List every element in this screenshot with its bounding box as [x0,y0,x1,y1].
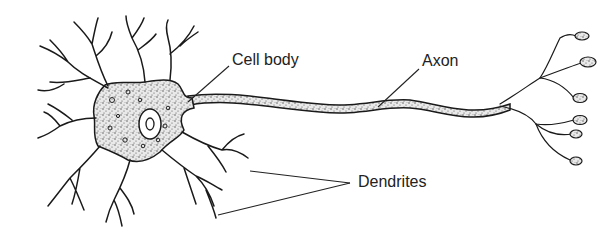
axon-terminal-bulb [575,32,589,40]
leader-lines [188,66,419,215]
neuron-diagram: Cell body Axon Dendrites [0,0,614,236]
neuron-illustration [0,0,614,236]
axon-terminal-bulb [570,130,582,138]
axon-terminal-bulb [580,57,596,67]
nucleus [139,109,161,139]
axon-terminal-bulb [573,94,587,103]
axon-label: Axon [422,53,458,69]
cell-body-label: Cell body [232,52,299,68]
axon-terminals [500,32,596,165]
axon [188,94,510,117]
axon-terminal-bulb [570,157,582,165]
dendrites-leader-line-upper [250,171,350,183]
dendrites-label: Dendrites [358,174,426,190]
axon-terminal-bulb [573,116,587,125]
dendrites-leader-line-lower [218,183,350,215]
